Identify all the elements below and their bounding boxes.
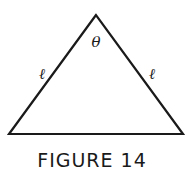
figure-diagram: θ ℓ ℓ FIGURE 14 [0,0,187,172]
figure-caption: FIGURE 14 [37,149,147,171]
right-side-label: ℓ [149,65,155,83]
left-side-label: ℓ [39,65,45,83]
apex-angle-label: θ [91,33,100,51]
